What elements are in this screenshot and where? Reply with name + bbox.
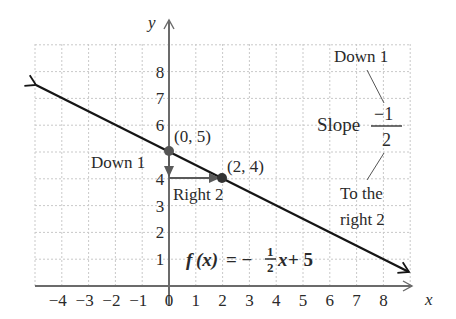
right-2-label: Right 2 [173, 185, 224, 204]
point-2-4-label: (2, 4) [227, 157, 264, 176]
right-2-leader [367, 153, 384, 180]
eq-x: x [277, 249, 288, 270]
y-tick-label: 7 [156, 89, 165, 108]
to-the-label: To the [340, 184, 383, 203]
y-axis-label: y [146, 13, 156, 32]
eq-frac-den: 2 [267, 260, 274, 275]
x-tick-label: 4 [272, 291, 281, 310]
x-tick-label: 1 [192, 291, 201, 310]
eq-equals-minus: = − [226, 249, 252, 270]
x-tick-label: −3 [76, 291, 94, 310]
eq-frac-num: 1 [267, 244, 274, 259]
y-tick-label: 8 [156, 63, 165, 82]
right-2-label-b: right 2 [340, 210, 385, 229]
function-equation: f (x) = − 1 2 x + 5 [186, 244, 313, 275]
x-tick-label: 6 [326, 291, 335, 310]
point-2-4 [217, 173, 227, 183]
x-tick-label: −4 [49, 291, 68, 310]
x-tick-label: 8 [379, 291, 388, 310]
eq-plus-5: + 5 [288, 249, 313, 270]
x-tick-label: 7 [352, 291, 361, 310]
x-tick-label: 5 [299, 291, 308, 310]
point-0-5-label: (0, 5) [174, 127, 211, 146]
y-tick-label: 1 [156, 250, 165, 269]
down-1-label-left: Down 1 [91, 153, 145, 172]
y-tick-label: 6 [156, 116, 165, 135]
y-tick-label: 4 [156, 170, 165, 189]
point-0-5 [164, 146, 174, 156]
slope-denominator: 2 [382, 130, 391, 150]
x-tick-label: 3 [245, 291, 254, 310]
linear-function-graph: −4−3−2−1012345678 1234678 x y (0, 5) (2,… [0, 0, 456, 319]
y-tick-label: 3 [156, 197, 165, 216]
x-axis-label: x [424, 290, 433, 309]
x-tick-label: −1 [129, 291, 147, 310]
x-tick-label: 0 [165, 291, 174, 310]
y-tick-label: 2 [156, 223, 165, 242]
y-tick-labels: 1234678 [156, 63, 165, 270]
slope-word: Slope [317, 114, 360, 135]
x-tick-labels: −4−3−2−1012345678 [49, 291, 388, 310]
x-tick-label: 2 [218, 291, 227, 310]
down-1-label-right: Down 1 [334, 47, 388, 66]
x-tick-label: −2 [102, 291, 120, 310]
slope-numerator: −1 [374, 104, 393, 124]
eq-x-arg: (x) [196, 249, 218, 271]
